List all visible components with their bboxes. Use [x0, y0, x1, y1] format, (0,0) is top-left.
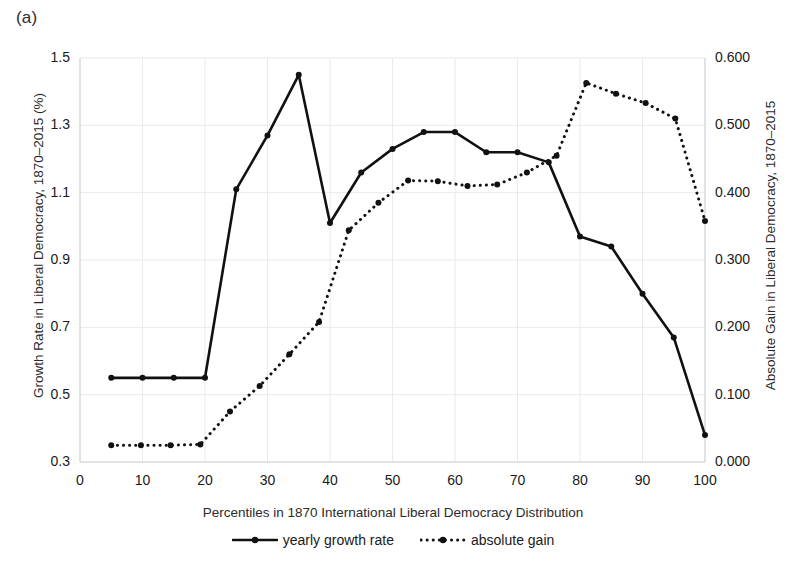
data-point-marker [346, 227, 352, 233]
data-point-marker [197, 441, 203, 447]
series-absolute-gain [108, 80, 708, 448]
series-yearly-growth-rate [108, 72, 708, 438]
legend-label: absolute gain [471, 532, 554, 548]
data-point-marker [171, 375, 177, 381]
data-point-marker [435, 178, 441, 184]
data-point-marker [577, 233, 583, 239]
data-point-marker [108, 442, 114, 448]
data-point-marker [613, 91, 619, 97]
data-point-marker [202, 375, 208, 381]
data-point-marker [421, 129, 427, 135]
plot-area [0, 0, 808, 576]
data-point-marker [140, 375, 146, 381]
data-point-marker [138, 442, 144, 448]
data-point-marker [375, 200, 381, 206]
data-point-marker [316, 319, 322, 325]
data-point-marker [524, 169, 530, 175]
data-point-marker [640, 291, 646, 297]
data-point-marker [583, 80, 589, 86]
data-point-marker [286, 351, 292, 357]
data-point-marker [233, 186, 239, 192]
data-point-marker [452, 129, 458, 135]
legend-swatch-icon [420, 534, 466, 546]
data-point-marker [608, 244, 614, 250]
legend-swatch-icon [232, 534, 278, 546]
data-point-marker [643, 100, 649, 106]
data-point-marker [465, 183, 471, 189]
data-point-marker [227, 409, 233, 415]
legend-label: yearly growth rate [283, 532, 394, 548]
data-point-marker [554, 153, 560, 159]
gridlines [80, 58, 705, 462]
legend-item-0[interactable]: yearly growth rate [232, 532, 394, 548]
series-line [111, 83, 705, 445]
data-point-marker [257, 383, 263, 389]
data-point-marker [672, 116, 678, 122]
data-point-marker [168, 442, 174, 448]
data-point-marker [671, 334, 677, 340]
series-line [111, 75, 705, 435]
data-point-marker [483, 149, 489, 155]
data-point-marker [296, 72, 302, 78]
data-point-marker [702, 432, 708, 438]
legend-item-1[interactable]: absolute gain [420, 532, 554, 548]
data-point-marker [327, 220, 333, 226]
data-point-marker [358, 169, 364, 175]
data-point-marker [108, 375, 114, 381]
chart-figure: (a) Growth Rate in Liberal Democracy, 18… [0, 0, 808, 576]
data-point-marker [494, 182, 500, 188]
chart-legend: yearly growth rateabsolute gain [80, 532, 706, 548]
data-point-marker [405, 178, 411, 184]
data-point-marker [265, 132, 271, 138]
data-point-marker [515, 149, 521, 155]
data-point-marker [390, 146, 396, 152]
data-point-marker [702, 218, 708, 224]
